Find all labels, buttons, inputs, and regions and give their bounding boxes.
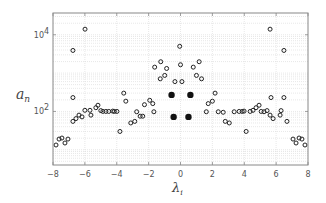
open-data-point xyxy=(285,119,289,123)
y-axis-ticks: 102104 xyxy=(34,27,308,117)
x-tick-label: −8 xyxy=(47,170,59,179)
open-data-point xyxy=(257,103,261,107)
x-tick-label: 2 xyxy=(210,170,215,179)
y-tick-label: 10 xyxy=(34,31,44,40)
open-data-point xyxy=(303,143,307,147)
x-tick-label: 0 xyxy=(178,170,183,179)
x-axis-label: λi xyxy=(171,180,183,197)
open-data-point xyxy=(66,137,70,141)
open-data-point xyxy=(221,110,225,114)
x-tick-label: −6 xyxy=(79,170,91,179)
x-tick-label: 4 xyxy=(242,170,247,179)
open-data-point xyxy=(142,103,146,107)
x-tick-label: −4 xyxy=(111,170,123,179)
y-axis-label: an xyxy=(16,86,30,104)
open-data-point xyxy=(54,143,58,147)
open-data-point xyxy=(153,65,157,69)
open-data-point xyxy=(268,27,272,31)
open-data-point xyxy=(71,48,75,52)
filled-data-point xyxy=(170,114,176,120)
filled-data-point xyxy=(185,114,191,120)
filled-data-point xyxy=(168,92,174,98)
open-data-point xyxy=(135,110,139,114)
x-tick-label: 8 xyxy=(305,170,310,179)
open-data-point xyxy=(191,65,195,69)
open-data-point xyxy=(269,96,273,100)
open-data-point xyxy=(165,66,169,70)
open-data-point xyxy=(206,102,210,106)
open-data-point xyxy=(71,96,75,100)
open-data-point xyxy=(63,141,67,145)
open-data-point xyxy=(204,110,208,114)
open-data-point xyxy=(282,48,286,52)
open-data-point xyxy=(133,119,137,123)
open-data-point xyxy=(282,96,286,100)
y-tick-exponent: 4 xyxy=(44,27,49,36)
x-tick-label: −2 xyxy=(143,170,155,179)
open-data-point xyxy=(151,102,155,106)
open-data-point xyxy=(141,114,145,118)
open-data-point xyxy=(194,73,198,77)
open-data-point xyxy=(163,73,167,77)
open-data-point xyxy=(291,137,295,141)
x-tick-label: 6 xyxy=(274,170,279,179)
open-data-point xyxy=(279,109,283,113)
y-tick-label: 10 xyxy=(34,107,44,116)
open-data-point xyxy=(216,110,220,114)
y-tick-exponent: 2 xyxy=(44,103,49,112)
open-data-point xyxy=(232,110,236,114)
grid-lines xyxy=(53,13,308,165)
scatter-chart: −8−6−4−202468 102104 an λi xyxy=(0,0,326,203)
filled-data-point xyxy=(187,92,193,98)
open-data-point xyxy=(294,141,298,145)
